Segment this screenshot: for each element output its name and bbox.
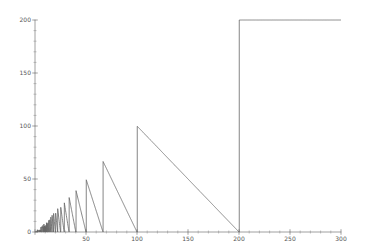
y-tick-label: 0 [27,228,31,235]
y-tick-label: 50 [23,175,31,182]
x-tick-label: 150 [182,235,194,242]
y-tick-label: 150 [20,69,32,76]
x-tick-label: 100 [131,235,143,242]
y-tick-label: 100 [20,122,32,129]
x-tick-label: 300 [335,235,347,242]
x-tick-label: 250 [284,235,296,242]
line-chart: 50100150200250300050100150200 [0,0,367,249]
x-tick-label: 200 [233,235,245,242]
y-tick-label: 200 [20,16,32,23]
axes [35,20,341,232]
data-series-line [35,20,341,232]
x-tick-label: 50 [82,235,90,242]
axis-ticks: 50100150200250300050100150200 [20,16,347,242]
